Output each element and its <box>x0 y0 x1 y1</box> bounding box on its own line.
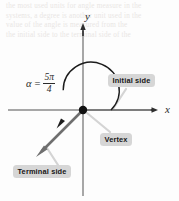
angle-measure-label: α = 5π 4 <box>26 73 55 94</box>
angle-arc <box>57 62 120 128</box>
callout-vertex: Vertex <box>100 133 132 146</box>
equals-sign: = <box>35 78 41 89</box>
fraction-numerator: 5π <box>43 73 55 83</box>
fraction-denominator: 4 <box>46 84 53 94</box>
angle-arc-arrowhead <box>57 118 65 128</box>
x-axis-arrowhead <box>152 107 159 112</box>
vertex-dot <box>79 106 87 114</box>
y-axis-label: y <box>85 10 90 22</box>
angle-fraction: 5π 4 <box>43 73 55 94</box>
x-axis-label: x <box>165 103 170 115</box>
terminal-side-ray <box>36 110 83 157</box>
callout-terminal-side: Terminal side <box>13 165 71 178</box>
callout-initial-side: Initial side <box>108 74 155 87</box>
alpha-symbol: α <box>26 78 32 89</box>
y-axis-arrowhead <box>80 23 85 30</box>
angle-diagram-figure: the most used units for angle measure in… <box>0 0 179 201</box>
